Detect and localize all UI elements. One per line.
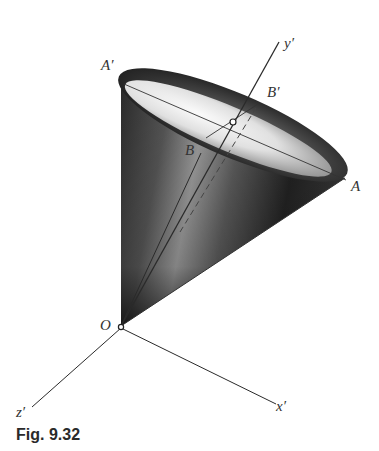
label-x-prime: x′ [275, 398, 287, 414]
axis-z-prime [32, 328, 121, 407]
label-z-prime: z′ [15, 404, 26, 420]
figure-caption: Fig. 9.32 [16, 426, 80, 443]
label-A: A [350, 178, 361, 194]
label-y-prime: y′ [282, 35, 295, 51]
cone-diagram: y′ A′ B′ B A O z′ x′ Fig. 9.32 [0, 0, 379, 451]
label-O: O [100, 317, 111, 333]
cone-figure: y′ A′ B′ B A O z′ x′ Fig. 9.32 [0, 0, 379, 451]
axis-x-prime [121, 328, 276, 404]
label-B: B [185, 142, 194, 158]
center-point [230, 119, 236, 125]
label-A-prime: A′ [100, 57, 114, 73]
origin-point [118, 324, 123, 329]
label-B-prime: B′ [267, 84, 280, 100]
